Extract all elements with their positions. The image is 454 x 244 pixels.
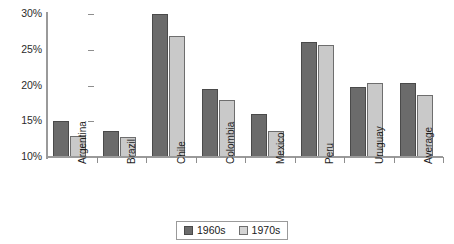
legend-label-1970s: 1970s [252,224,281,236]
category-label-peru: Peru [324,143,335,164]
category-label-average: Average [423,127,434,164]
category-label-mexico: Mexico [275,132,286,164]
bar-average-1960s[interactable] [400,83,416,157]
bar-uruguay-1960s[interactable] [350,87,366,157]
y-tick-label: 30% [21,7,42,19]
x-tick-mark [295,157,296,163]
category-label-brazil: Brazil [126,139,137,164]
bar-chart: 10%15%20%25%30% ArgentinaBrazilChileColo… [0,0,454,244]
category-label-chile: Chile [176,141,187,164]
y-tick-label: 20% [21,79,42,91]
x-tick-mark [97,157,98,163]
x-tick-mark [443,157,444,163]
y-tick-mark [88,14,94,15]
y-axis-line [46,12,48,159]
bar-peru-1970s[interactable] [318,45,334,157]
legend-item-1970s[interactable]: 1970s [239,224,281,236]
category-label-colombia: Colombia [225,122,236,164]
y-tick-label: 10% [21,150,42,162]
series-1970s-swatch-icon [239,226,248,235]
y-tick-mark [88,50,94,51]
y-tick-label: 15% [21,114,42,126]
bar-argentina-1960s[interactable] [53,121,69,157]
x-tick-mark [146,157,147,163]
chart-legend: 1960s 1970s [176,221,288,240]
bar-colombia-1960s[interactable] [202,89,218,157]
y-tick-mark [88,86,94,87]
series-1960s-swatch-icon [184,226,193,235]
bar-mexico-1960s[interactable] [251,114,267,157]
y-tick-label: 25% [21,43,42,55]
x-tick-mark [196,157,197,163]
category-label-uruguay: Uruguay [374,126,385,164]
category-label-argentina: Argentina [77,121,88,164]
y-tick-mark [88,121,94,122]
legend-item-1960s[interactable]: 1960s [184,224,226,236]
bar-peru-1960s[interactable] [301,42,317,157]
bar-brazil-1960s[interactable] [103,131,119,157]
x-tick-mark [245,157,246,163]
x-tick-mark [344,157,345,163]
bar-chile-1970s[interactable] [169,36,185,157]
x-tick-mark [394,157,395,163]
bar-chile-1960s[interactable] [152,14,168,157]
legend-label-1960s: 1960s [197,224,226,236]
